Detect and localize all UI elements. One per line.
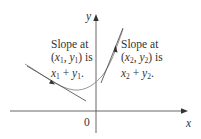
diagram-canvas	[0, 0, 201, 139]
x-axis-label: x	[186, 117, 191, 130]
annotation-point-2: Slope at (x2, y2) is x2 + y2.	[121, 38, 163, 83]
x-axis-arrow-icon	[181, 108, 188, 113]
tangent-line-2	[101, 28, 123, 83]
annotation-1-line-2: (x1, y1) is	[51, 51, 93, 67]
annotation-2-line-3: x2 + y2.	[121, 67, 163, 83]
annotation-2-line-2: (x2, y2) is	[121, 51, 163, 67]
y-axis-label: y	[86, 10, 91, 23]
annotation-1-line-3: x1 + y1.	[51, 67, 93, 83]
annotation-point-1: Slope at (x1, y1) is x1 + y1.	[51, 38, 93, 83]
origin-label: 0	[84, 116, 90, 129]
annotation-1-line-1: Slope at	[51, 38, 93, 51]
y-axis-arrow-icon	[93, 14, 98, 21]
annotation-2-line-1: Slope at	[121, 38, 163, 51]
